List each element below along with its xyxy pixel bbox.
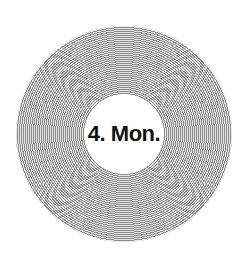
record-center-label: 4. Mon. xyxy=(84,94,164,174)
label-text: 4. Mon. xyxy=(88,121,160,147)
